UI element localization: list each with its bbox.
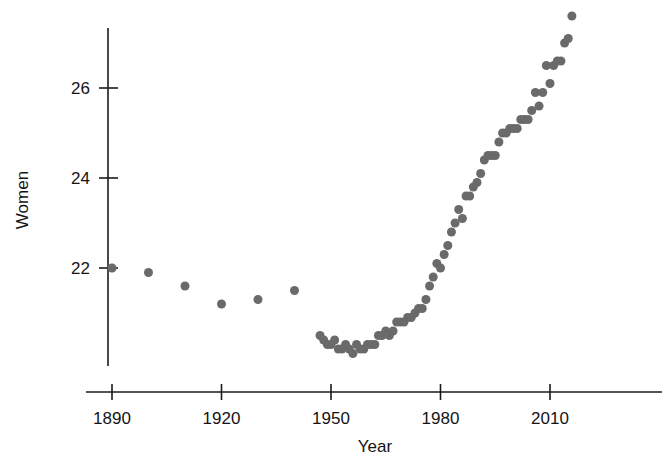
data-point xyxy=(330,336,339,345)
data-point xyxy=(370,340,379,349)
data-point xyxy=(443,241,452,250)
x-axis-ticks: 18901920195019802010 xyxy=(93,384,569,428)
data-point xyxy=(524,115,533,124)
data-point xyxy=(429,273,438,282)
data-point xyxy=(418,304,427,313)
data-point xyxy=(491,151,500,160)
data-point xyxy=(181,282,190,291)
data-point xyxy=(290,286,299,295)
data-points xyxy=(108,12,577,359)
x-tick-label: 1890 xyxy=(93,409,131,428)
data-point xyxy=(217,300,226,309)
data-point xyxy=(440,250,449,259)
data-point xyxy=(473,178,482,187)
scatter-chart-figure: 222426 18901920195019802010 Women Year xyxy=(0,0,665,463)
x-axis-title: Year xyxy=(358,437,393,456)
data-point xyxy=(564,34,573,43)
plot-canvas: 222426 18901920195019802010 Women Year xyxy=(0,0,665,463)
data-point xyxy=(476,169,485,178)
x-tick-label: 1980 xyxy=(422,409,460,428)
data-point xyxy=(454,205,463,214)
data-point xyxy=(538,88,547,97)
y-tick-label: 24 xyxy=(71,169,90,188)
data-point xyxy=(556,57,565,66)
y-axis: 222426 xyxy=(71,28,118,366)
data-point xyxy=(254,295,263,304)
data-point xyxy=(447,228,456,237)
data-point xyxy=(144,268,153,277)
x-tick-label: 2010 xyxy=(531,409,569,428)
data-point xyxy=(108,264,117,273)
data-point xyxy=(458,214,467,223)
data-point xyxy=(465,192,474,201)
y-axis-ticks: 222426 xyxy=(71,79,118,278)
data-point xyxy=(546,79,555,88)
y-tick-label: 26 xyxy=(71,79,90,98)
data-point xyxy=(567,12,576,21)
y-axis-title: Women xyxy=(13,171,32,229)
data-point xyxy=(389,327,398,336)
x-tick-label: 1950 xyxy=(312,409,350,428)
x-tick-label: 1920 xyxy=(203,409,241,428)
y-tick-label: 22 xyxy=(71,259,90,278)
data-point xyxy=(535,102,544,111)
data-point xyxy=(494,138,503,147)
data-point xyxy=(425,282,434,291)
data-point xyxy=(513,124,522,133)
data-point xyxy=(421,295,430,304)
data-point xyxy=(436,264,445,273)
x-axis: 18901920195019802010 xyxy=(86,384,662,428)
